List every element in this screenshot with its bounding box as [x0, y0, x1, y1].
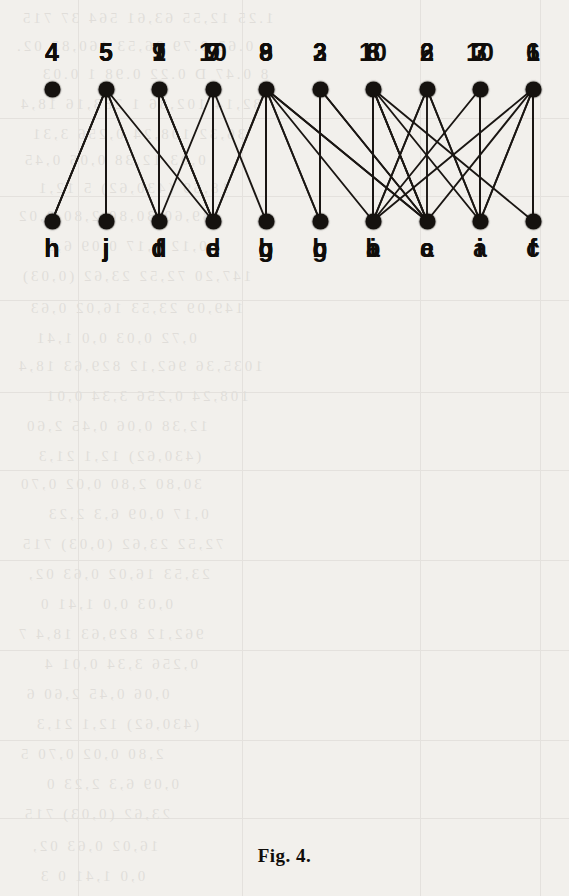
diagram-3-bottom-label-b: b: [312, 236, 327, 261]
diagram-3-top-node-7[interactable]: [206, 82, 221, 97]
diagram-3-bottom-node-j[interactable]: [99, 214, 114, 229]
diagram-3-top-node-5[interactable]: [99, 82, 114, 97]
diagram-3-top-label-8: 8: [259, 40, 273, 65]
figure-caption: Fig. 4.: [0, 845, 569, 867]
diagram-3-top-node-9[interactable]: [152, 82, 167, 97]
diagram-3-bottom-node-i[interactable]: [366, 214, 381, 229]
diagram-3-bottom-node-d[interactable]: [152, 214, 167, 229]
diagram-3-bottom-node-g[interactable]: [259, 214, 274, 229]
diagram-2-edges: [0, 300, 569, 570]
diagram-2: 45798210631hjdegcbaif: [0, 300, 569, 570]
diagram-3-top-label-3: 3: [313, 40, 327, 65]
diagram-3-top-node-6[interactable]: [366, 82, 381, 97]
diagram-3-bottom-node-b[interactable]: [313, 214, 328, 229]
diagram-3-top-label-10: 10: [466, 40, 494, 65]
diagram-3-bottom-label-j: j: [103, 236, 110, 261]
diagram-3-top-label-2: 2: [420, 40, 434, 65]
diagram-3-top-label-9: 9: [152, 40, 166, 65]
diagram-3-top-label-1: 1: [526, 40, 540, 65]
diagram-3-bottom-label-i: i: [370, 236, 377, 261]
diagram-3-bottom-label-g: g: [258, 236, 273, 261]
diagram-3-top-node-3[interactable]: [313, 82, 328, 97]
diagram-3-top-node-2[interactable]: [420, 82, 435, 97]
diagram-3-bottom-node-a[interactable]: [473, 214, 488, 229]
diagram-3-bottom-node-f[interactable]: [526, 214, 541, 229]
diagram-3-top-label-7: 7: [206, 40, 220, 65]
diagram-3-bottom-label-d: d: [151, 236, 166, 261]
diagram-3-bottom-label-h: h: [44, 236, 59, 261]
diagram-3-bottom-label-c: c: [420, 236, 434, 261]
diagram-3-top-label-5: 5: [99, 40, 113, 65]
diagram-3-bottom-label-a: a: [473, 236, 487, 261]
diagram-3-top-label-6: 6: [366, 40, 380, 65]
diagram-3-top-node-1[interactable]: [526, 82, 541, 97]
diagram-3-top-node-8[interactable]: [259, 82, 274, 97]
diagram-3-bottom-node-c[interactable]: [420, 214, 435, 229]
diagram-3-bottom-label-e: e: [206, 236, 220, 261]
diagram-3-top-node-4[interactable]: [45, 82, 60, 97]
diagram-3-bottom-node-h[interactable]: [45, 214, 60, 229]
diagram-3-bottom-label-f: f: [529, 236, 537, 261]
figure-bipartite-diagrams: 45110938276hjfdbgaeic45798210631hjdegcba…: [0, 0, 569, 896]
diagram-3: 45978362101hjdegbicaf: [0, 570, 569, 840]
diagram-3-edges: [0, 570, 569, 840]
diagram-3-top-node-10[interactable]: [473, 82, 488, 97]
diagram-3-bottom-node-e[interactable]: [206, 214, 221, 229]
diagram-3-top-label-4: 4: [45, 40, 59, 65]
